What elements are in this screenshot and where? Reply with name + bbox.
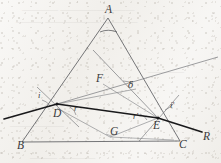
angle-label-delta: δ xyxy=(128,81,133,90)
prism-diagram-figure: ———— ————— ——— ——— —————— ———— ———— ————… xyxy=(0,0,221,163)
vertex-label-a: A xyxy=(105,4,112,16)
emergent-ray-er xyxy=(158,118,202,132)
segment-d-to-f xyxy=(57,89,136,104)
diagram-canvas xyxy=(0,0,221,163)
vertex-label-g: G xyxy=(110,126,118,138)
internal-refracted-ray-de xyxy=(57,104,158,118)
node-dot-d xyxy=(56,103,59,106)
apex-angle-arc xyxy=(100,30,117,32)
vertex-label-d: D xyxy=(53,108,61,120)
vertex-label-c: C xyxy=(179,139,187,151)
ray-label-r: R xyxy=(203,131,210,143)
angle-label-r-prime: r' xyxy=(133,112,138,121)
segment-d-to-g xyxy=(57,108,110,137)
angle-label-i: i xyxy=(38,91,40,100)
incident-ray-segment xyxy=(4,104,57,119)
vertex-label-b: B xyxy=(17,140,24,152)
vertex-label-f: F xyxy=(96,73,103,85)
angle-label-r: r xyxy=(74,104,77,113)
vertex-label-e: E xyxy=(153,120,160,132)
angle-label-i-prime: i' xyxy=(170,101,174,110)
